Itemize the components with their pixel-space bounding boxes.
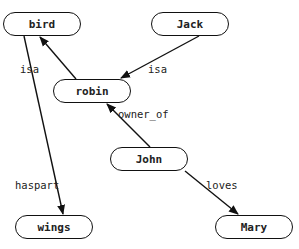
node-mary: Mary — [215, 215, 293, 239]
edge-robin-isa-bird — [40, 37, 76, 79]
node-jack: Jack — [151, 12, 229, 36]
edge-label-isa-jack-robin: isa — [148, 63, 167, 75]
edge-john-loves-mary — [185, 171, 238, 214]
node-bird: bird — [3, 12, 81, 36]
node-john: John — [110, 147, 188, 171]
node-wings: wings — [15, 215, 93, 239]
edges-layer — [0, 0, 299, 249]
semantic-network-diagram: bird Jack robin John wings Mary isa isa … — [0, 0, 299, 249]
edge-label-loves: loves — [206, 179, 238, 191]
edge-label-isa-robin-bird: isa — [20, 63, 39, 75]
node-robin: robin — [53, 79, 131, 103]
edge-label-owner-of: owner_of — [118, 108, 169, 120]
edge-label-haspart: haspart — [15, 179, 59, 191]
